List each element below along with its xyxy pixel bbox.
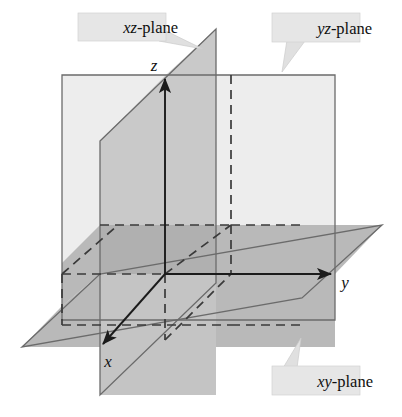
xz-xy-overlap-surface — [100, 225, 216, 274]
yz-callout-tail — [282, 40, 305, 72]
yz-plane-callout: yz-plane — [272, 13, 401, 72]
diagram-canvas: x y z xz-plane yz-plane xy-plane — [0, 0, 402, 417]
xy-callout-prefix: xy — [316, 372, 332, 391]
z-axis-label: z — [150, 56, 158, 75]
yz-callout-label: yz-plane — [280, 19, 401, 38]
coordinate-planes-figure: x y z xz-plane yz-plane xy-plane — [0, 0, 402, 417]
xy-callout-suffix: -plane — [332, 372, 373, 391]
yz-callout-prefix: yz — [315, 19, 331, 38]
xz-callout-suffix: -plane — [137, 18, 178, 37]
x-axis-label: x — [103, 352, 112, 371]
xz-callout-label: xz-plane — [86, 18, 207, 37]
xz-plane-callout: xz-plane — [78, 13, 207, 49]
xz-callout-prefix: xz — [122, 18, 137, 37]
xy-callout-label: xy-plane — [280, 372, 402, 391]
y-axis-label: y — [339, 273, 349, 292]
yz-callout-suffix: -plane — [331, 19, 372, 38]
